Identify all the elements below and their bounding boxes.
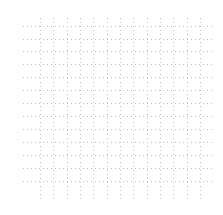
vertical-gridlines — [41, 18, 201, 200]
dotted-grid — [0, 0, 223, 215]
horizontal-gridlines — [23, 27, 215, 182]
